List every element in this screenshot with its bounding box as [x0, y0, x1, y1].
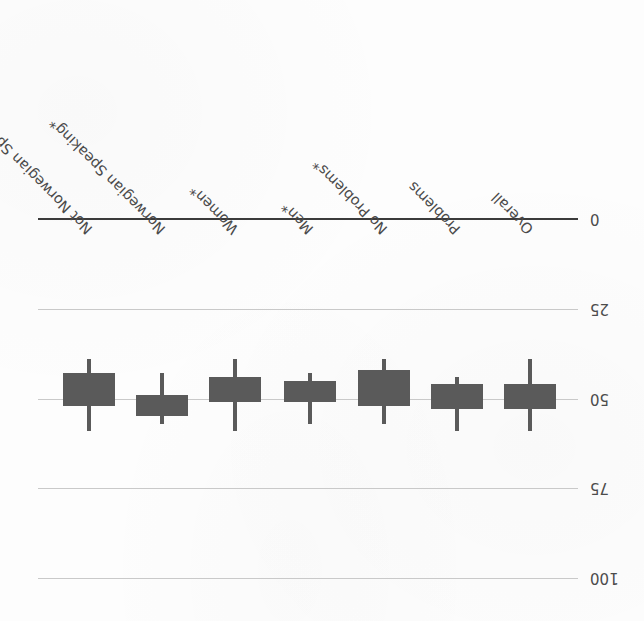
- box-whisker-marks-layer: [0, 0, 644, 621]
- box-2: [209, 377, 261, 402]
- box-1: [136, 395, 188, 417]
- chart-canvas: 0255075100 Not Norwegian Speaking*Norweg…: [0, 0, 644, 621]
- box-5: [431, 384, 483, 409]
- box-4: [358, 370, 410, 406]
- box-6: [504, 384, 556, 409]
- box-0: [63, 373, 115, 405]
- box-3: [284, 381, 336, 403]
